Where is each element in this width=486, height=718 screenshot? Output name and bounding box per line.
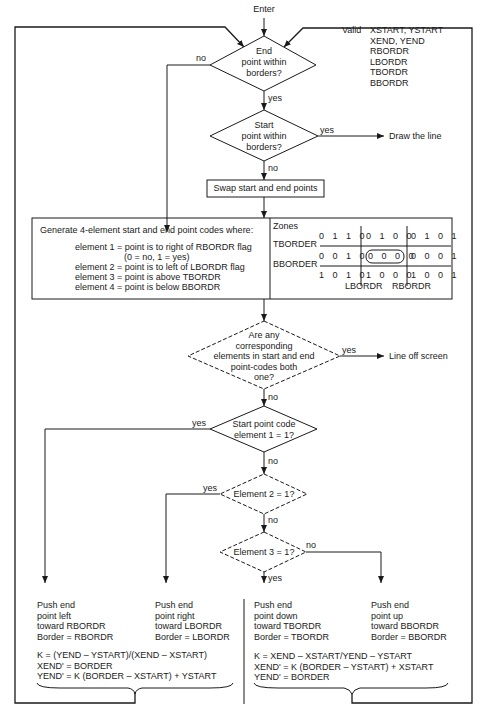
zone-code: 1 0 1 0 (319, 270, 368, 281)
zone-code: 1 0 0 0 (366, 270, 415, 281)
valid-label: Valid (342, 25, 361, 36)
decision-element-1: Start point code element 1 = 1? (219, 419, 309, 441)
zone-code: 0 0 1 0 (319, 251, 368, 262)
action-push-up: Push endpoint uptoward BBORDRBorder = BB… (371, 600, 447, 642)
input-item: LBORDR (370, 57, 443, 68)
zone-code-inside: 0 0 0 0 (368, 251, 417, 262)
zone-code: 0 0 0 1 (411, 251, 460, 262)
zones-title: Zones (273, 221, 298, 232)
enter-label: Enter (244, 4, 284, 15)
decision-element-3: Element 3 = 1? (224, 547, 304, 558)
zone-code: 1 0 0 1 (411, 270, 460, 281)
zone-code: 0 1 0 1 (411, 231, 460, 242)
zone-col-label: LBORDR (345, 281, 383, 292)
swap-box: Swap start and end points (207, 183, 324, 194)
start-within-yes-label: yes (320, 125, 334, 136)
zone-code: 0 1 1 0 (319, 231, 368, 242)
elem2-no-label: no (268, 515, 278, 526)
zone-row-label: TBORDER (273, 239, 317, 250)
zone-code: 0 1 0 0 (366, 231, 415, 242)
formula-horizontal: K = (YEND – YSTART)/(XEND – XSTART)XEND'… (37, 650, 216, 682)
start-within-no-label: no (268, 163, 278, 174)
decision-both-one: Are any corresponding elements in start … (199, 330, 329, 383)
elem1-no-label: no (268, 456, 278, 467)
action-push-down: Push endpoint downtoward TBORDRBorder = … (254, 600, 329, 642)
input-item: BBORDR (370, 78, 443, 89)
input-item: TBORDR (370, 67, 443, 78)
zone-row-label: BBORDER (273, 259, 318, 270)
zone-col-label: RBORDR (392, 281, 431, 292)
input-item: XEND, YEND (370, 36, 443, 47)
elem3-yes-label: yes (268, 573, 282, 584)
input-item: RBORDR (370, 46, 443, 57)
decision-end-within: End point within borders? (224, 46, 304, 79)
input-item: XSTART, YSTART (370, 25, 443, 36)
decision-start-within: Start point within borders? (224, 120, 304, 153)
elem1-yes-label: yes (192, 418, 206, 429)
inputs-list: XSTART, YSTART XEND, YEND RBORDR LBORDR … (370, 25, 443, 88)
outcome-line-off-screen: Line off screen (389, 351, 448, 362)
elem3-no-label: no (306, 540, 316, 551)
codes-title: Generate 4-element start and end point c… (40, 225, 253, 236)
outcome-draw-line: Draw the line (389, 131, 442, 142)
decision-element-2: Element 2 = 1? (224, 489, 304, 500)
end-within-yes-label: yes (268, 93, 282, 104)
code-line: element 4 = point is below BBORDR (75, 282, 220, 293)
both-one-no-label: no (268, 392, 278, 403)
both-one-yes-label: yes (342, 345, 356, 356)
formula-vertical: K = XEND – XSTART/YEND – YSTARTXEND' = K… (254, 651, 433, 683)
elem2-yes-label: yes (203, 483, 217, 494)
end-within-no-label: no (196, 53, 206, 64)
action-push-right: Push endpoint righttoward LBORDRBorder =… (155, 600, 230, 642)
action-push-left: Push endpoint lefttoward RBORDRBorder = … (37, 600, 113, 642)
